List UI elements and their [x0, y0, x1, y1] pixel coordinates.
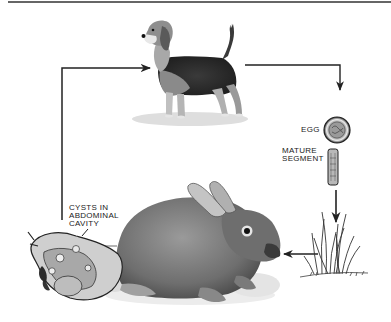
egg-illustration: [324, 117, 350, 143]
arrow-cysts-to-dog: [62, 68, 150, 220]
rabbit-illustration: [105, 182, 280, 305]
dog-illustration: [132, 20, 248, 126]
diagram-artwork: [0, 0, 391, 322]
mature-segment-label: MATURE SEGMENT: [282, 147, 324, 163]
cysts-organ-illustration: [28, 232, 122, 300]
arrow-dog-to-egg: [245, 65, 340, 90]
cysts-leader-line: [82, 229, 88, 236]
segment-illustration: [328, 149, 338, 185]
life-cycle-diagram: EGG MATURE SEGMENT CYSTS IN ABDOMINAL CA…: [0, 0, 391, 322]
grass-illustration: [300, 212, 368, 277]
egg-label: EGG: [301, 126, 320, 135]
cysts-label: CYSTS IN ABDOMINAL CAVITY: [69, 204, 119, 228]
